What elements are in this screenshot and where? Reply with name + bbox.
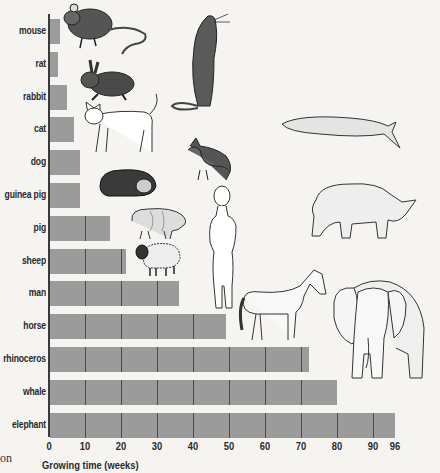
gridline — [157, 314, 158, 339]
x-tick-label: 10 — [80, 440, 90, 452]
pig-illustration — [128, 205, 188, 241]
x-tick-label: 80 — [332, 440, 342, 452]
row-label: horse — [0, 319, 46, 331]
row-label: pig — [0, 221, 46, 233]
x-tick-label: 20 — [116, 440, 126, 452]
x-tick-label: 90 — [368, 440, 378, 452]
bar-mouse — [50, 19, 60, 44]
mouse-illustration — [60, 4, 150, 54]
gridline — [157, 380, 158, 405]
bar-rat — [50, 52, 58, 77]
row-label: rhinoceros — [0, 352, 46, 364]
gridline — [85, 216, 86, 241]
cat-illustration — [80, 94, 165, 158]
bar-guinea-pig — [50, 183, 80, 208]
row-label: cat — [0, 122, 46, 134]
gridline — [229, 413, 230, 438]
x-tick-label: 96 — [390, 440, 400, 452]
growing-time-bar-chart: mouseratrabbitcatdogguinea pigpigsheepma… — [0, 0, 440, 473]
whale-illustration — [280, 112, 404, 152]
x-tick-label: 40 — [188, 440, 198, 452]
x-tick-label: 50 — [224, 440, 234, 452]
sheep-illustration — [134, 240, 182, 278]
gridline — [301, 413, 302, 438]
horse-illustration — [236, 264, 328, 342]
gridline — [193, 413, 194, 438]
bar-horse — [50, 314, 226, 339]
bar-rabbit — [50, 85, 67, 110]
x-tick-label: 60 — [260, 440, 270, 452]
row-label: rat — [0, 57, 46, 69]
gridline — [85, 314, 86, 339]
gridline — [373, 413, 374, 438]
gridline — [85, 380, 86, 405]
bar-man — [50, 281, 179, 306]
bar-cat — [50, 117, 74, 142]
bar-rhinoceros — [50, 347, 309, 372]
gridline — [121, 380, 122, 405]
gridline — [193, 314, 194, 339]
gridline — [265, 347, 266, 372]
bar-pig — [50, 216, 110, 241]
gridline — [85, 249, 86, 274]
bar-whale — [50, 380, 337, 405]
dog-illustration — [186, 136, 236, 182]
cropped-page-text: on — [0, 451, 12, 466]
human-illustration — [206, 186, 240, 311]
gridline — [193, 347, 194, 372]
row-label: rabbit — [0, 90, 46, 102]
bar-dog — [50, 150, 80, 175]
gridline — [301, 380, 302, 405]
row-label: man — [0, 286, 46, 298]
gridline — [121, 314, 122, 339]
gridline — [85, 347, 86, 372]
gridline — [265, 380, 266, 405]
bar-elephant — [50, 413, 395, 438]
gridline — [121, 413, 122, 438]
gridline — [121, 281, 122, 306]
gridline — [229, 347, 230, 372]
gridline — [229, 380, 230, 405]
rat-illustration — [168, 8, 238, 108]
row-label: whale — [0, 385, 46, 397]
rhinoceros-illustration — [306, 180, 418, 242]
elephant-illustration — [330, 278, 426, 384]
guinea-pig-illustration — [96, 166, 158, 200]
row-label: guinea pig — [0, 188, 46, 200]
gridline — [157, 347, 158, 372]
x-tick-label: 0 — [46, 440, 51, 452]
gridline — [121, 249, 122, 274]
gridline — [337, 413, 338, 438]
gridline — [85, 413, 86, 438]
bar-sheep — [50, 249, 126, 274]
gridline — [85, 281, 86, 306]
x-axis-title: Growing time (weeks) — [42, 459, 139, 471]
row-label: sheep — [0, 254, 46, 266]
gridline — [121, 347, 122, 372]
x-tick-label: 30 — [152, 440, 162, 452]
gridline — [157, 413, 158, 438]
gridline — [157, 281, 158, 306]
row-label: dog — [0, 155, 46, 167]
x-tick-label: 70 — [296, 440, 306, 452]
row-label: mouse — [0, 24, 46, 36]
gridline — [265, 413, 266, 438]
gridline — [193, 380, 194, 405]
gridline — [301, 347, 302, 372]
row-label: elephant — [0, 418, 46, 430]
